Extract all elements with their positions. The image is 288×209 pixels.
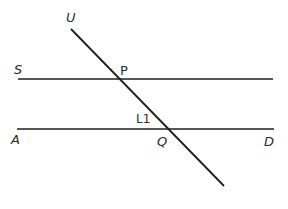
transversal-line <box>71 29 224 186</box>
label-p: P <box>120 64 128 77</box>
label-a: A <box>11 133 20 146</box>
label-angle-l1: L1 <box>136 113 150 125</box>
label-q: Q <box>157 135 167 148</box>
label-s: S <box>14 63 22 76</box>
geometry-diagram <box>0 0 288 209</box>
label-u: U <box>66 11 76 24</box>
label-d: D <box>264 135 274 148</box>
